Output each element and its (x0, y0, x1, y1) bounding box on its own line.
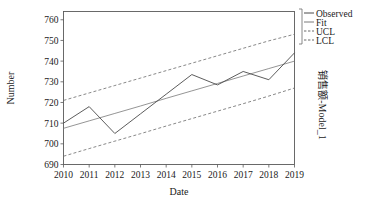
x-axis-tick-label: 2018 (259, 170, 278, 180)
series-line-observed (64, 53, 295, 134)
x-axis-tick-label: 2013 (131, 170, 150, 180)
y-axis-tick-label: 710 (44, 119, 59, 129)
x-axis-tick-label: 2012 (105, 170, 124, 180)
series-line-ucl (64, 34, 295, 100)
x-axis-tick-label: 2016 (208, 170, 227, 180)
legend-item-lcl[interactable]: LCL (304, 36, 334, 46)
y-axis-tick-label: 700 (44, 139, 59, 149)
legend: Observed Fit UCL LCL (299, 9, 353, 46)
series-line-fit (64, 61, 295, 128)
y-axis-tick-labels: 690700710720730740750760 (44, 15, 59, 170)
x-axis-title: Date (170, 186, 189, 197)
x-axis-tick-label: 2011 (80, 170, 99, 180)
series-line-lcl (64, 88, 295, 156)
forecast-line-chart: 690700710720730740750760 201020112012201… (0, 0, 372, 201)
x-axis-tick-label: 2017 (234, 170, 253, 180)
y-axis-tick-label: 690 (44, 160, 59, 170)
legend-item-observed[interactable]: Observed (304, 9, 353, 19)
chart-container: 690700710720730740750760 201020112012201… (0, 0, 372, 201)
y-axis-title: Number (5, 71, 16, 104)
legend-label-lcl: LCL (316, 36, 334, 46)
y-axis-tick-label: 760 (44, 15, 59, 25)
y-axis-tick-label: 740 (44, 57, 59, 67)
y-axis-tick-label: 720 (44, 98, 59, 108)
x-axis-tick-labels: 2010201120122013201420152016201720182019 (54, 170, 304, 180)
plot-frame (64, 12, 295, 165)
x-axis-tick-label: 2010 (54, 170, 73, 180)
x-axis-tick-label: 2015 (182, 170, 201, 180)
y-axis-tick-label: 730 (44, 77, 59, 87)
y-axis-tick-label: 750 (44, 36, 59, 46)
x-axis-tick-label: 2014 (157, 170, 176, 180)
x-axis-tick-label: 2019 (285, 170, 304, 180)
right-axis-label: 销售额-Model_1 (317, 70, 329, 139)
